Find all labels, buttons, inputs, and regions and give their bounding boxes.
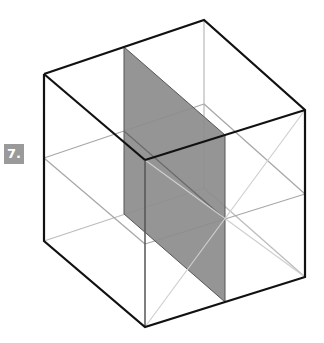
cube-diagram	[0, 0, 324, 343]
